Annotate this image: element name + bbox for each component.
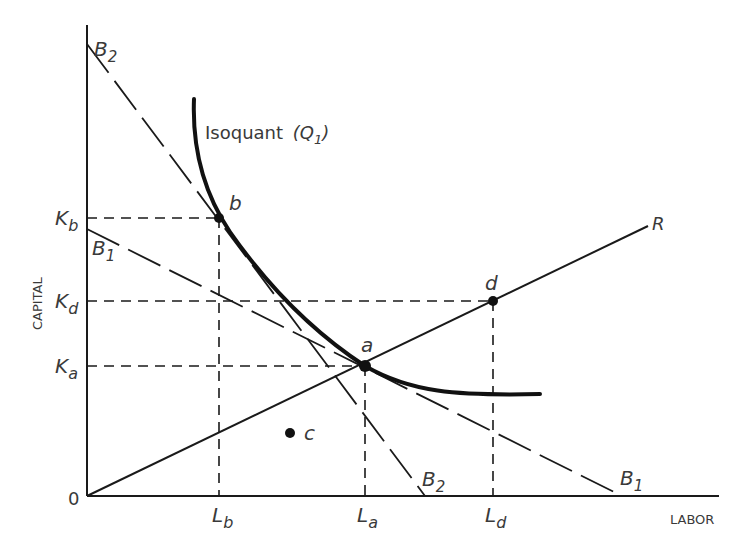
x-tick-la: La [357, 503, 378, 532]
y-axis-label: CAPITAL [30, 277, 45, 330]
point-b-label: b [229, 191, 242, 215]
point-a-marker [359, 360, 371, 372]
point-c-marker [285, 428, 295, 438]
y-tick-kb: Kb [55, 206, 78, 235]
budget-line-b1 [87, 229, 622, 496]
budget-line-b2 [87, 44, 425, 496]
budget-b1-top-label: B1 [92, 236, 115, 265]
y-tick-ka: Ka [55, 354, 78, 383]
budget-b2-bottom-label: B2 [422, 467, 445, 496]
point-d-marker [488, 296, 498, 306]
ray-label: R [652, 213, 665, 234]
x-tick-lb: Lb [212, 503, 233, 532]
point-a-label: a [361, 333, 373, 357]
origin-label: 0 [68, 488, 79, 509]
point-c-label: c [304, 421, 315, 445]
y-tick-kd: Kd [55, 289, 79, 318]
budget-b1-bottom-label: B1 [620, 466, 643, 495]
x-tick-ld: Ld [485, 503, 507, 532]
point-b-marker [214, 213, 224, 223]
point-d-label: d [485, 271, 498, 295]
isoquant-label: Isoquant (Q1) [205, 122, 329, 147]
diagram-canvas: 0 LABOR CAPITAL Kb Kd Ka Lb La Ld Isoqua… [0, 0, 747, 556]
x-axis-label: LABOR [670, 512, 714, 527]
budget-b2-top-label: B2 [94, 37, 117, 66]
